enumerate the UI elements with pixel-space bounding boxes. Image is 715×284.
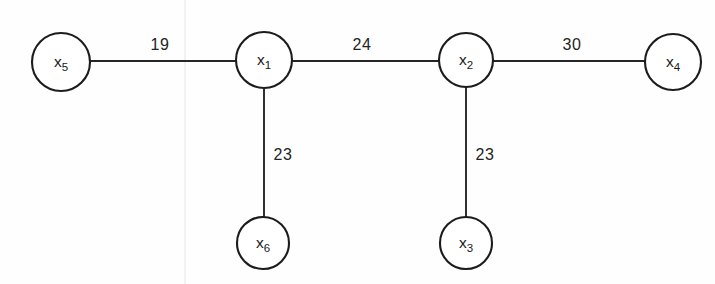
edge-weight-label-x2-x3: 23: [476, 146, 495, 163]
graph-canvas: 1924302323 x5x1x2x4x6x3: [0, 0, 715, 284]
node-label-subscript-x2: 2: [467, 59, 473, 71]
edge-weight-label-x2-x4: 30: [563, 36, 582, 53]
node-x3: x3: [440, 217, 492, 269]
node-label-subscript-x6: 6: [264, 242, 270, 254]
node-x1: x1: [236, 32, 292, 88]
node-label-subscript-x4: 4: [674, 61, 681, 73]
edge-weight-label-x5-x1: 19: [151, 36, 170, 53]
edge-weight-label-x1-x2: 24: [353, 36, 372, 53]
edge-layer: [90, 61, 645, 217]
node-x6: x6: [237, 217, 289, 269]
node-label-subscript-x3: 3: [467, 242, 473, 254]
node-x5: x5: [32, 33, 90, 91]
graph-diagram: 1924302323 x5x1x2x4x6x3: [0, 0, 715, 284]
node-x2: x2: [439, 33, 493, 87]
node-label-subscript-x1: 1: [265, 59, 271, 71]
edge-weight-label-x1-x6: 23: [274, 146, 293, 163]
node-layer: x5x1x2x4x6x3: [32, 32, 701, 269]
edge-label-layer: 1924302323: [151, 36, 582, 163]
node-x4: x4: [645, 34, 701, 90]
node-label-subscript-x5: 5: [62, 61, 68, 73]
